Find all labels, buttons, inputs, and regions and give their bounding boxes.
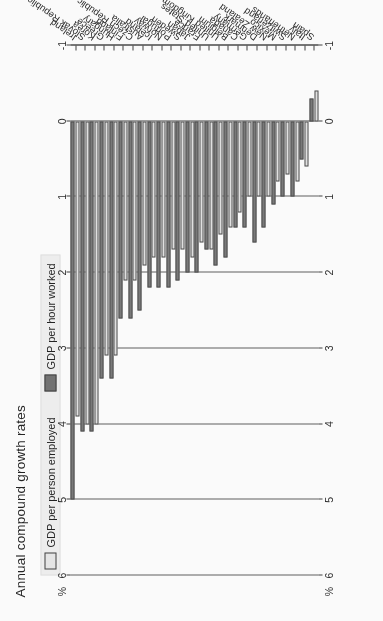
x-axis-tick xyxy=(318,120,322,121)
bar-gdp-per-hour-worked xyxy=(290,121,294,197)
legend-entry-gdp-per-person-employed: GDP per person employed xyxy=(44,417,56,569)
x-axis-tick-label: 6 xyxy=(322,572,334,578)
bar-gdp-per-hour-worked xyxy=(252,121,256,242)
x-axis-tick xyxy=(318,498,322,499)
bar-group xyxy=(89,45,99,575)
bar-group xyxy=(165,45,175,575)
bar-group xyxy=(251,45,261,575)
x-axis-tick xyxy=(318,574,322,575)
x-axis-tick-label: 3 xyxy=(322,345,334,351)
bar-group xyxy=(280,45,290,575)
x-axis-tick xyxy=(318,271,322,272)
bar-gdp-per-person-employed xyxy=(142,121,146,265)
bar-gdp-per-person-employed xyxy=(266,121,270,197)
bar-gdp-per-person-employed xyxy=(171,121,175,250)
bar-gdp-per-hour-worked xyxy=(118,121,122,318)
bar-gdp-per-person-employed xyxy=(285,121,289,174)
x-axis-tick-label: 1 xyxy=(55,194,67,200)
x-axis-tick-label: 5 xyxy=(55,496,67,502)
x-axis-tick xyxy=(318,347,322,348)
x-axis-tick xyxy=(318,44,322,45)
bar-group xyxy=(99,45,109,575)
bar-group xyxy=(175,45,185,575)
x-axis-tick-label: -1 xyxy=(322,40,334,49)
bar-gdp-per-person-employed xyxy=(180,121,184,250)
bar-group xyxy=(204,45,214,575)
x-axis-tick-label: -1 xyxy=(55,40,67,49)
bar-group xyxy=(308,45,318,575)
x-axis-tick-label: 4 xyxy=(55,421,67,427)
bar-group xyxy=(232,45,242,575)
bar-gdp-per-hour-worked xyxy=(109,121,113,378)
bar-gdp-per-hour-worked xyxy=(223,121,227,257)
bar-group xyxy=(137,45,147,575)
x-axis-tick-label: 2 xyxy=(322,269,334,275)
legend-label-gdp-per-person-employed: GDP per person employed xyxy=(44,417,56,547)
bar-group xyxy=(146,45,156,575)
bar-gdp-per-hour-worked xyxy=(137,121,141,310)
rotated-figure-canvas: Annual compound growth rates GDP per per… xyxy=(0,0,383,621)
bar-group xyxy=(184,45,194,575)
bar-group xyxy=(270,45,280,575)
bar-gdp-per-person-employed xyxy=(295,121,299,182)
bar-gdp-per-person-employed xyxy=(314,90,318,120)
x-axis-tick-label: 0 xyxy=(322,118,334,124)
bar-group xyxy=(156,45,166,575)
bar-gdp-per-hour-worked xyxy=(128,121,132,318)
bar-gdp-per-person-employed xyxy=(132,121,136,280)
bar-group xyxy=(213,45,223,575)
bar-group xyxy=(194,45,204,575)
bar-gdp-per-hour-worked xyxy=(213,121,217,265)
bar-gdp-per-hour-worked xyxy=(185,121,189,272)
bar-gdp-per-hour-worked xyxy=(204,121,208,250)
chart-legend: GDP per person employed GDP per hour wor… xyxy=(40,254,60,575)
bar-group xyxy=(261,45,271,575)
bar-gdp-per-person-employed xyxy=(85,121,89,424)
bar-gdp-per-hour-worked xyxy=(271,121,275,204)
bar-gdp-per-person-employed xyxy=(228,121,232,227)
bar-gdp-per-person-employed xyxy=(304,121,308,166)
bar-gdp-per-hour-worked xyxy=(166,121,170,288)
bar-gdp-per-person-employed xyxy=(275,121,279,182)
x-axis-tick-label: 1 xyxy=(322,194,334,200)
bar-gdp-per-person-employed xyxy=(94,121,98,424)
bar-gdp-per-hour-worked xyxy=(194,121,198,272)
bar-gdp-per-hour-worked xyxy=(175,121,179,280)
bar-gdp-per-hour-worked xyxy=(147,121,151,288)
axis-unit-label: % xyxy=(322,586,334,595)
bar-gdp-per-person-employed xyxy=(75,121,79,416)
bar-gdp-per-hour-worked xyxy=(233,121,237,227)
bar-group xyxy=(118,45,128,575)
x-axis-tick xyxy=(318,423,322,424)
bar-gdp-per-person-employed xyxy=(237,121,241,212)
bar-group xyxy=(70,45,80,575)
chart-figure: Annual compound growth rates GDP per per… xyxy=(0,0,383,621)
legend-entry-gdp-per-hour-worked: GDP per hour worked xyxy=(44,263,56,391)
x-axis-tick-label: 3 xyxy=(55,345,67,351)
bar-group xyxy=(223,45,233,575)
bar-group xyxy=(299,45,309,575)
x-axis-tick-label: 0 xyxy=(55,118,67,124)
bar-gdp-per-person-employed xyxy=(123,121,127,280)
legend-swatch-icon-dark xyxy=(44,374,56,391)
legend-label-gdp-per-hour-worked: GDP per hour worked xyxy=(44,263,56,369)
bar-gdp-per-hour-worked xyxy=(99,121,103,378)
x-axis-tick-label: 5 xyxy=(322,496,334,502)
bar-group xyxy=(127,45,137,575)
bar-group xyxy=(80,45,90,575)
chart-title: Annual compound growth rates xyxy=(12,405,27,597)
bar-gdp-per-hour-worked xyxy=(280,121,284,197)
bar-gdp-per-hour-worked xyxy=(89,121,93,431)
bar-gdp-per-person-employed xyxy=(256,121,260,197)
plot-area: -1-100112233445566%%IrelandSlovak Republ… xyxy=(70,45,318,575)
bar-gdp-per-person-employed xyxy=(161,121,165,257)
bar-gdp-per-hour-worked xyxy=(299,121,303,159)
bar-gdp-per-person-employed xyxy=(218,121,222,235)
bar-group xyxy=(242,45,252,575)
bar-gdp-per-hour-worked xyxy=(70,121,74,500)
bar-gdp-per-person-employed xyxy=(104,121,108,356)
x-axis-tick-label: 6 xyxy=(55,572,67,578)
bar-gdp-per-person-employed xyxy=(209,121,213,250)
x-axis-tick xyxy=(318,195,322,196)
bar-gdp-per-hour-worked xyxy=(309,98,313,121)
